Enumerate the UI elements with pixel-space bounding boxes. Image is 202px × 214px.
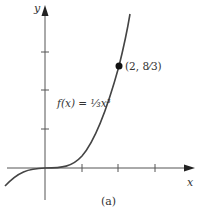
x-axis-label: x	[187, 176, 194, 189]
function-label: f(x) = ⅓x³	[56, 97, 111, 109]
y-axis-arrow-icon	[42, 5, 49, 16]
y-axis-label: y	[33, 2, 41, 15]
figure-caption: (a)	[101, 195, 116, 208]
graph-canvas: y x (2, 8⁄3) f(x) = ⅓x³ (a)	[0, 0, 202, 214]
x-axis-arrow-icon	[184, 165, 195, 172]
point-label: (2, 8⁄3)	[125, 60, 162, 72]
highlighted-point	[116, 63, 123, 70]
